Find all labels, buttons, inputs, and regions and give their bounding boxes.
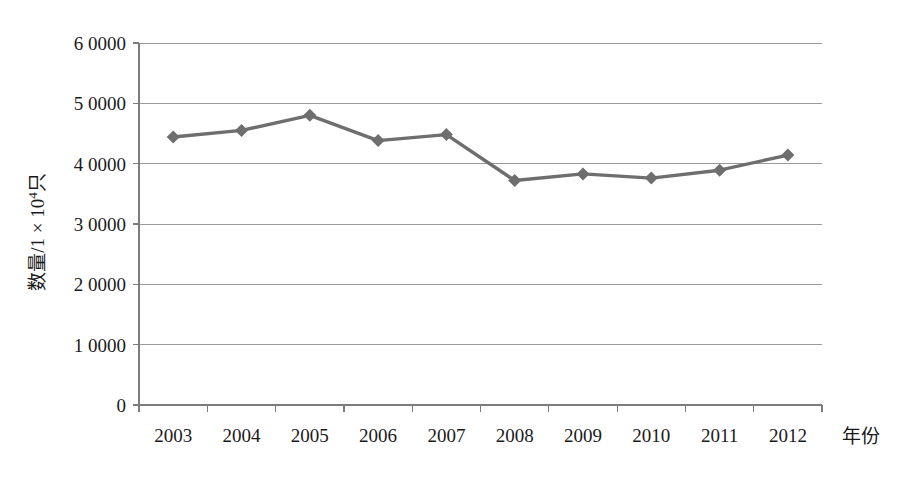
x-tick-label: 2004 [223, 425, 262, 446]
x-tick-label: 2008 [496, 425, 534, 446]
line-chart-svg: 6 0000 5 0000 4 0000 3 0000 2 0000 1 000… [0, 0, 915, 489]
x-tick-label: 2005 [291, 425, 329, 446]
x-tick-label: 2003 [154, 425, 192, 446]
y-axis-title-main: 数量/1 × 10 [27, 199, 48, 291]
x-axis-title: 年份 [842, 426, 880, 447]
y-tick-label: 2 0000 [74, 274, 126, 295]
x-tick-label: 2007 [427, 425, 465, 446]
y-tickmarks [133, 43, 139, 405]
x-tick-label: 2012 [769, 425, 807, 446]
y-tick-label: 4 0000 [74, 154, 126, 175]
y-tick-label: 1 0000 [74, 335, 126, 356]
chart-figure: 6 0000 5 0000 4 0000 3 0000 2 0000 1 000… [0, 0, 915, 489]
x-tickmarks [139, 405, 822, 412]
y-axis-title: 数量/1 × 104只 [25, 173, 48, 291]
y-tick-label: 5 0000 [74, 93, 126, 114]
svg-text:数量/1 × 104只: 数量/1 × 104只 [25, 173, 48, 291]
x-tick-label: 2006 [359, 425, 397, 446]
x-tick-label: 2011 [701, 425, 738, 446]
x-tick-label: 2009 [564, 425, 602, 446]
y-tick-label: 0 [117, 395, 127, 416]
y-tick-label: 3 0000 [74, 214, 126, 235]
y-tick-label: 6 0000 [74, 33, 126, 54]
y-axis-title-tail: 只 [27, 173, 48, 192]
x-tick-labels: 2003 2004 2005 2006 2007 2008 2009 2010 … [154, 425, 807, 446]
x-tick-label: 2010 [632, 425, 670, 446]
y-tick-labels: 6 0000 5 0000 4 0000 3 0000 2 0000 1 000… [74, 33, 126, 416]
